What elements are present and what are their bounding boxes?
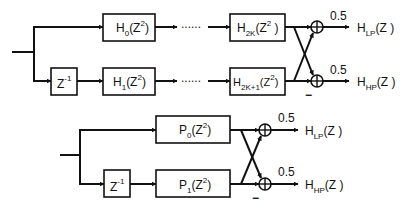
output-lp-label: HLP(Z ) <box>305 124 342 141</box>
filter-h2k1: H2K+1(Z2) <box>230 68 285 95</box>
gain-top: 0.5 <box>330 9 347 23</box>
delay-block: Z-1 <box>104 170 130 197</box>
cross-down <box>294 27 313 75</box>
filter-h2k: H2K(Z2 ) <box>230 14 285 41</box>
adder-top <box>311 21 323 33</box>
cross-up <box>241 136 261 184</box>
adder-top <box>259 124 271 136</box>
filter-h0: H0(Z2) <box>103 14 155 41</box>
filter-p1: P1(Z2) <box>156 170 230 197</box>
output-hp-label: HHP(Z ) <box>357 75 395 92</box>
diagram-bottom: Z-1 P0(Z2) P1(Z2) − 0.5 0.5 HLP( <box>60 111 343 205</box>
cross-down <box>241 130 261 178</box>
filter-h1: H1(Z2) <box>103 68 155 95</box>
adder-bottom <box>259 178 271 190</box>
output-hp-label: HHP(Z ) <box>305 178 343 195</box>
delay-block: Z-1 <box>51 68 77 95</box>
output-lp-label: HLP(Z ) <box>357 21 394 38</box>
gain-bottom: 0.5 <box>330 63 347 77</box>
gain-bottom: 0.5 <box>278 165 295 179</box>
filter-p0: P0(Z2) <box>156 116 230 143</box>
minus-sign: − <box>252 191 259 205</box>
dots-top: ...... <box>181 17 201 31</box>
gain-top: 0.5 <box>278 111 295 125</box>
minus-sign: − <box>305 88 312 102</box>
cross-up <box>294 33 313 81</box>
diagram-top: Z-1 H0(Z2) H1(Z2) ...... ...... H2K(Z2 )… <box>12 9 395 102</box>
dots-bottom: ...... <box>181 71 201 85</box>
adder-bottom <box>311 75 323 87</box>
